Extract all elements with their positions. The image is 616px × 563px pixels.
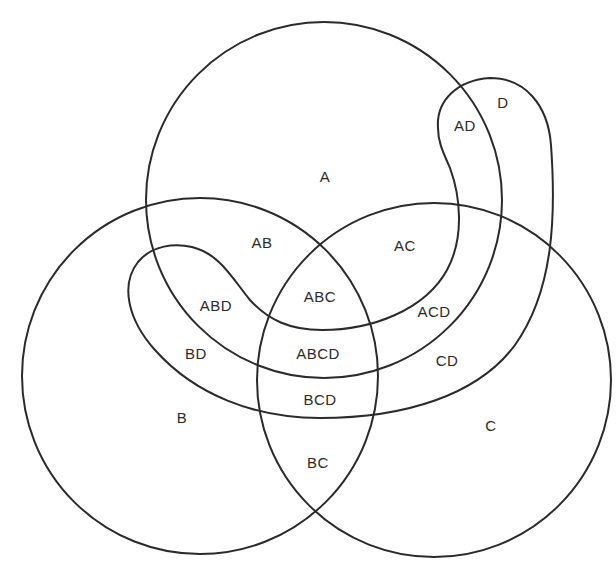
region-label-abd: ABD	[200, 297, 232, 314]
set-b-circle	[22, 198, 378, 554]
region-label-a: A	[320, 168, 331, 185]
region-label-ab: AB	[251, 234, 272, 251]
venn-diagram: A B C D AB AC AD ABC ABD ACD BD CD ABCD …	[0, 0, 616, 563]
region-label-abc: ABC	[304, 288, 336, 305]
region-label-c: C	[485, 417, 496, 434]
region-label-ad: AD	[454, 117, 476, 134]
set-c-circle	[257, 203, 611, 557]
region-label-ac: AC	[394, 237, 416, 254]
set-d-band	[128, 78, 553, 418]
region-label-bcd: BCD	[303, 391, 336, 408]
region-label-d: D	[497, 94, 508, 111]
region-label-bc: BC	[307, 454, 329, 471]
region-label-b: B	[177, 409, 188, 426]
region-label-bd: BD	[185, 345, 207, 362]
region-label-cd: CD	[436, 352, 459, 369]
set-a-circle	[146, 22, 502, 378]
region-label-acd: ACD	[417, 303, 450, 320]
region-label-abcd: ABCD	[296, 345, 340, 362]
